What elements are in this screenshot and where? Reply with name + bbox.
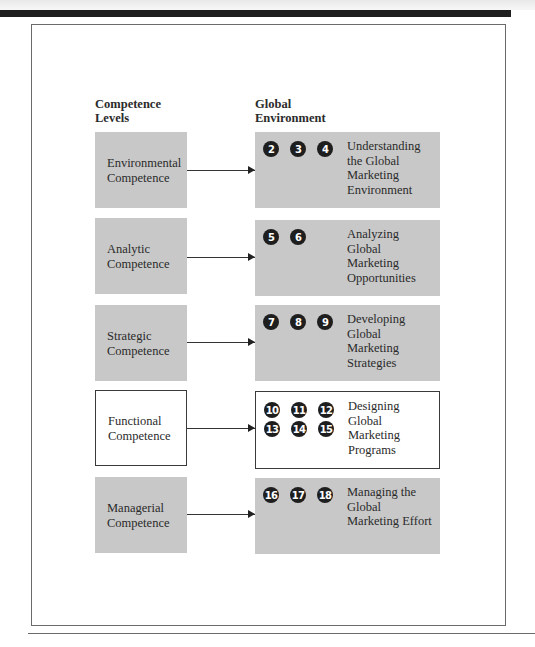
competence-box-managerial: Managerial Competence bbox=[95, 477, 187, 553]
topic-line: Marketing bbox=[348, 428, 440, 443]
chapter-badge: 16 bbox=[263, 487, 279, 503]
competence-label: Strategic Competence bbox=[107, 329, 169, 358]
arrow-right-icon bbox=[187, 342, 255, 343]
chapter-badge: 10 bbox=[264, 402, 280, 418]
chapter-badge: 2 bbox=[263, 141, 279, 157]
arrow-right-icon bbox=[187, 514, 255, 515]
competence-box-functional: Functional Competence bbox=[95, 390, 187, 466]
topic-line: Marketing bbox=[347, 168, 439, 183]
chapter-badge: 3 bbox=[290, 141, 306, 157]
chapter-badges: 16 17 18 bbox=[263, 487, 347, 503]
topic-label: Developing Global Marketing Strategies bbox=[347, 312, 439, 370]
chapter-badge: 5 bbox=[263, 229, 279, 245]
topic-line: Understanding bbox=[347, 139, 439, 154]
arrow-right-icon bbox=[187, 257, 255, 258]
environment-box-analyzing: 5 6 Analyzing Global Marketing Opportuni… bbox=[255, 220, 440, 296]
left-column-header: Competence Levels bbox=[95, 97, 215, 125]
right-header-line: Global bbox=[255, 97, 375, 111]
chapter-badge: 14 bbox=[291, 421, 307, 437]
topic-line: Global bbox=[347, 500, 439, 515]
chapter-badge: 13 bbox=[264, 421, 280, 437]
chapter-badge: 9 bbox=[317, 314, 333, 330]
competence-line: Competence bbox=[108, 428, 170, 443]
environment-box-designing: 10 11 12 13 14 15 Designing Global Marke… bbox=[255, 391, 440, 469]
topic-label: Designing Global Marketing Programs bbox=[348, 399, 440, 457]
topic-line: Global bbox=[348, 414, 440, 429]
chapter-badge: 17 bbox=[290, 487, 306, 503]
competence-box-strategic: Strategic Competence bbox=[95, 305, 187, 381]
environment-box-understanding: 2 3 4 Understanding the Global Marketing… bbox=[255, 132, 440, 208]
competence-box-environmental: Environmental Competence bbox=[95, 132, 187, 208]
arrow-right-icon bbox=[187, 170, 255, 171]
chapter-badge: 7 bbox=[263, 314, 279, 330]
chapter-badges: 10 11 12 13 14 15 bbox=[264, 402, 348, 437]
left-header-line: Levels bbox=[95, 111, 215, 125]
topic-label: Understanding the Global Marketing Envir… bbox=[347, 139, 439, 197]
competence-line: Competence bbox=[107, 343, 169, 358]
competence-line: Strategic bbox=[107, 329, 169, 344]
topic-line: Marketing Effort bbox=[347, 514, 439, 529]
topic-label: Managing the Global Marketing Effort bbox=[347, 485, 439, 529]
topic-line: the Global bbox=[347, 154, 439, 169]
chapter-badge: 4 bbox=[317, 141, 333, 157]
competence-line: Environmental bbox=[107, 156, 181, 171]
chapter-badges: 7 8 9 bbox=[263, 314, 347, 330]
page-header-rule bbox=[0, 10, 511, 17]
topic-line: Global bbox=[347, 242, 439, 257]
competence-line: Managerial bbox=[107, 501, 169, 516]
topic-line: Marketing bbox=[347, 256, 439, 271]
topic-line: Environment bbox=[347, 183, 439, 198]
chapter-badge: 6 bbox=[290, 229, 306, 245]
chapter-badge: 12 bbox=[318, 402, 334, 418]
topic-label: Analyzing Global Marketing Opportunities bbox=[347, 227, 439, 285]
chapter-badge: 8 bbox=[290, 314, 306, 330]
page-footer-rule bbox=[28, 633, 535, 634]
left-header-line: Competence bbox=[95, 97, 215, 111]
arrow-right-icon bbox=[187, 428, 255, 429]
competence-label: Environmental Competence bbox=[107, 156, 181, 185]
competence-label: Analytic Competence bbox=[107, 242, 169, 271]
topic-line: Marketing bbox=[347, 341, 439, 356]
chapter-badges: 5 6 bbox=[263, 229, 347, 245]
right-header-line: Environment bbox=[255, 111, 375, 125]
competence-line: Competence bbox=[107, 170, 181, 185]
competence-line: Functional bbox=[108, 414, 170, 429]
chapter-badges: 2 3 4 bbox=[263, 141, 347, 157]
topic-line: Managing the bbox=[347, 485, 439, 500]
chapter-badge: 18 bbox=[317, 487, 333, 503]
page-top-shade bbox=[0, 0, 535, 10]
topic-line: Developing bbox=[347, 312, 439, 327]
competence-line: Competence bbox=[107, 256, 169, 271]
competence-label: Functional Competence bbox=[108, 414, 170, 443]
topic-line: Strategies bbox=[347, 356, 439, 371]
topic-line: Opportunities bbox=[347, 271, 439, 286]
competence-line: Analytic bbox=[107, 242, 169, 257]
topic-line: Designing bbox=[348, 399, 440, 414]
chapter-badge: 11 bbox=[291, 402, 307, 418]
environment-box-developing: 7 8 9 Developing Global Marketing Strate… bbox=[255, 305, 440, 381]
environment-box-managing: 16 17 18 Managing the Global Marketing E… bbox=[255, 478, 440, 554]
topic-line: Programs bbox=[348, 443, 440, 458]
right-column-header: Global Environment bbox=[255, 97, 375, 125]
topic-line: Global bbox=[347, 327, 439, 342]
competence-box-analytic: Analytic Competence bbox=[95, 218, 187, 294]
topic-line: Analyzing bbox=[347, 227, 439, 242]
competence-label: Managerial Competence bbox=[107, 501, 169, 530]
competence-line: Competence bbox=[107, 515, 169, 530]
chapter-badge: 15 bbox=[318, 421, 334, 437]
